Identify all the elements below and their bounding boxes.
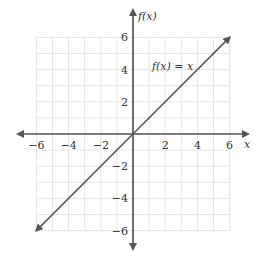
x-tick-label: −2 — [93, 139, 109, 152]
x-tick-label: −6 — [28, 139, 44, 152]
y-tick-label: 4 — [121, 64, 128, 77]
plot-area: −6−4−2246 642−2−4−6 x f(x) f(x) = x — [0, 0, 265, 270]
y-tick-label: −2 — [112, 160, 128, 173]
x-tick-label: 6 — [226, 139, 233, 152]
y-tick-label: 6 — [121, 31, 128, 44]
y-tick-label: −4 — [112, 192, 128, 205]
y-tick-label: −6 — [112, 225, 128, 238]
x-axis-label: x — [244, 138, 251, 151]
y-axis-label: f(x) — [137, 10, 157, 23]
function-graph: −6−4−2246 642−2−4−6 x f(x) f(x) = x — [0, 0, 265, 270]
x-tick-label: 4 — [194, 139, 201, 152]
function-label: f(x) = x — [151, 60, 194, 73]
x-tick-label: −4 — [60, 139, 76, 152]
y-tick-label: 2 — [121, 96, 128, 109]
x-tick-label: 2 — [162, 139, 169, 152]
